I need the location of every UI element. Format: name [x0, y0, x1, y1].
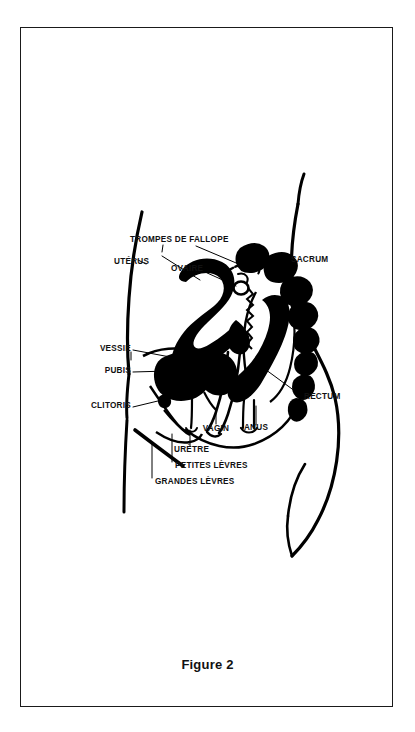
label-rectum: RECTUM: [304, 393, 341, 401]
label-uretre: URÈTRE: [174, 446, 209, 454]
label-clitoris: CLITORIS: [91, 402, 131, 410]
label-pubis: PUBIS: [105, 367, 131, 375]
figure-page: TROMPES DE FALLOPE UTÉRUS OVAIRE SACRUM …: [0, 0, 415, 732]
label-anus: ANUS: [244, 424, 268, 432]
figure-border: [20, 27, 393, 707]
label-ovaire: OVAIRE: [171, 265, 203, 273]
label-trompes-de-fallope: TROMPES DE FALLOPE: [130, 236, 229, 244]
label-petites-levres: PETITES LÈVRES: [175, 462, 248, 470]
label-vagin: VAGIN: [203, 425, 230, 433]
label-grandes-levres: GRANDES LÈVRES: [155, 478, 234, 486]
figure-caption: Figure 2: [0, 657, 415, 672]
label-uterus: UTÉRUS: [114, 258, 149, 266]
label-sacrum: SACRUM: [291, 256, 328, 264]
label-vessie: VESSIE: [100, 345, 131, 353]
